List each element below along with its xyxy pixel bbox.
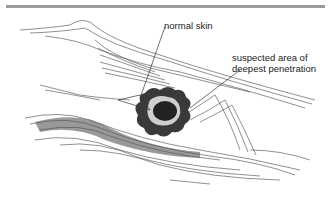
- lesion: [135, 87, 190, 137]
- label-normal-skin: normal skin: [164, 20, 213, 31]
- label-line-1: suspected area of: [232, 52, 316, 63]
- label-deepest-penetration: suspected area of deepest penetration: [232, 52, 316, 74]
- label-line-2: deepest penetration: [232, 63, 316, 74]
